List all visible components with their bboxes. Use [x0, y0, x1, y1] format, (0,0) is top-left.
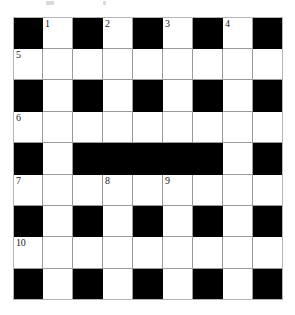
grid-cell[interactable] — [73, 237, 103, 268]
grid-cell[interactable] — [73, 112, 103, 143]
grid-cell-block — [163, 143, 193, 174]
grid-cell[interactable] — [103, 112, 133, 143]
grid-cell[interactable]: 8 — [103, 175, 133, 206]
grid-cell-block — [193, 80, 223, 111]
cell-number: 4 — [225, 18, 230, 30]
grid-cell-block — [73, 206, 103, 237]
grid-cell[interactable] — [193, 175, 223, 206]
grid-cell[interactable] — [103, 237, 133, 268]
grid-cell[interactable]: 7 — [13, 175, 43, 206]
grid-cell[interactable] — [43, 112, 73, 143]
scan-mark-left-icon — [46, 1, 54, 5]
grid-cell[interactable] — [223, 143, 253, 174]
cell-number: 1 — [45, 18, 50, 30]
grid-cell-block — [193, 269, 223, 300]
grid-cell-block — [133, 206, 163, 237]
grid-cell[interactable] — [223, 112, 253, 143]
grid-cell[interactable] — [193, 112, 223, 143]
grid-cell[interactable] — [253, 175, 283, 206]
crossword-grid-container: 12345678910 — [13, 17, 283, 300]
grid-cell-block — [133, 17, 163, 49]
grid-cell[interactable] — [43, 143, 73, 174]
cell-number: 5 — [16, 49, 21, 61]
grid-cell[interactable]: 10 — [13, 237, 43, 268]
grid-cell-block — [13, 269, 43, 300]
grid-cell-block — [13, 17, 43, 49]
grid-cell[interactable] — [133, 112, 163, 143]
grid-cell[interactable] — [223, 237, 253, 268]
grid-cell-block — [73, 80, 103, 111]
grid-cell[interactable] — [163, 80, 193, 111]
cell-number: 8 — [105, 175, 110, 187]
grid-cell[interactable]: 6 — [13, 112, 43, 143]
grid-cell[interactable] — [43, 175, 73, 206]
scan-artifact-layer — [0, 0, 295, 17]
grid-cell[interactable]: 2 — [103, 17, 133, 49]
cell-number: 10 — [16, 237, 26, 249]
grid-cell-block — [193, 143, 223, 174]
cell-number: 2 — [105, 18, 110, 30]
grid-cell[interactable]: 4 — [223, 17, 253, 49]
grid-cell[interactable] — [103, 49, 133, 80]
grid-cell[interactable] — [193, 237, 223, 268]
grid-cell[interactable]: 3 — [163, 17, 193, 49]
grid-cell-block — [253, 17, 283, 49]
grid-cell[interactable] — [43, 206, 73, 237]
grid-cell-block — [133, 143, 163, 174]
grid-cell[interactable] — [163, 237, 193, 268]
grid-cell[interactable] — [163, 49, 193, 80]
grid-cell[interactable] — [163, 112, 193, 143]
grid-cell[interactable]: 1 — [43, 17, 73, 49]
grid-cell-block — [253, 80, 283, 111]
grid-cell[interactable] — [253, 237, 283, 268]
grid-cell[interactable] — [43, 80, 73, 111]
grid-cell[interactable] — [73, 175, 103, 206]
grid-cell[interactable] — [103, 206, 133, 237]
scan-mark-right-icon — [103, 1, 106, 5]
grid-cell[interactable] — [103, 80, 133, 111]
grid-cell-block — [193, 17, 223, 49]
grid-cell[interactable]: 9 — [163, 175, 193, 206]
crossword-puzzle: 12345678910 — [0, 0, 295, 315]
grid-cell[interactable] — [133, 175, 163, 206]
grid-cell[interactable] — [223, 175, 253, 206]
grid-cell[interactable] — [163, 269, 193, 300]
cell-number: 7 — [16, 175, 21, 187]
grid-cell[interactable] — [133, 49, 163, 80]
grid-cell[interactable] — [73, 49, 103, 80]
grid-cell-block — [13, 80, 43, 111]
grid-cell[interactable] — [223, 269, 253, 300]
grid-cell[interactable] — [253, 49, 283, 80]
grid-cell-block — [13, 206, 43, 237]
crossword-grid[interactable]: 12345678910 — [13, 17, 283, 300]
grid-cell-block — [133, 269, 163, 300]
grid-cell[interactable] — [43, 237, 73, 268]
grid-cell[interactable] — [193, 49, 223, 80]
grid-cell-block — [253, 143, 283, 174]
grid-cell-block — [73, 17, 103, 49]
grid-cell-block — [253, 206, 283, 237]
grid-cell[interactable] — [133, 237, 163, 268]
grid-cell-block — [13, 143, 43, 174]
grid-cell-block — [103, 143, 133, 174]
grid-cell[interactable]: 5 — [13, 49, 43, 80]
cell-number: 9 — [165, 175, 170, 187]
grid-cell[interactable] — [163, 206, 193, 237]
grid-cell[interactable] — [223, 80, 253, 111]
grid-cell[interactable] — [253, 112, 283, 143]
grid-cell[interactable] — [43, 269, 73, 300]
grid-cell-block — [193, 206, 223, 237]
grid-cell-block — [133, 80, 163, 111]
grid-cell[interactable] — [103, 269, 133, 300]
grid-cell[interactable] — [223, 206, 253, 237]
cell-number: 6 — [16, 112, 21, 124]
grid-cell-block — [253, 269, 283, 300]
cell-number: 3 — [165, 18, 170, 30]
grid-cell-block — [73, 143, 103, 174]
grid-cell[interactable] — [223, 49, 253, 80]
grid-cell[interactable] — [43, 49, 73, 80]
grid-cell-block — [73, 269, 103, 300]
